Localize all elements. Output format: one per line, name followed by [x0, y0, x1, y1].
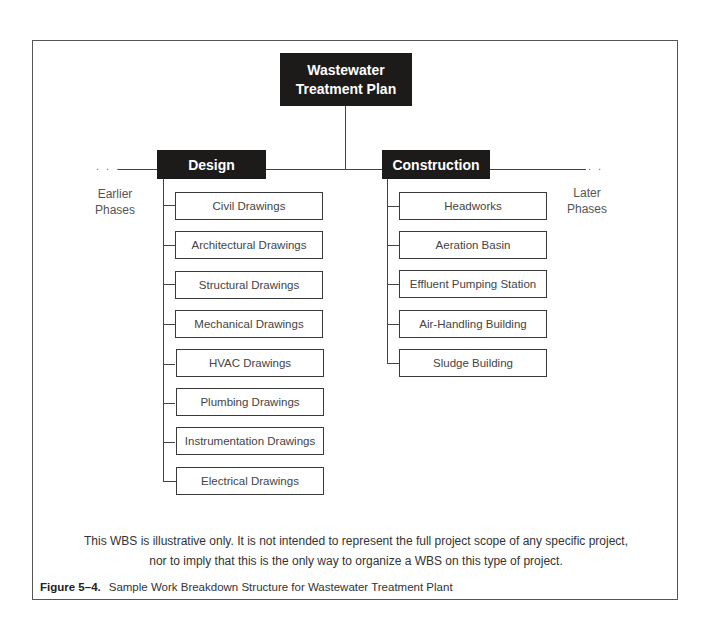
figure-frame [32, 40, 678, 600]
design-tick [163, 364, 175, 365]
leaf-label: Effluent Pumping Station [410, 278, 536, 290]
design-tick [163, 442, 175, 443]
note-line1: This WBS is illustrative only. It is not… [40, 531, 672, 551]
earlier-line2: Phases [92, 202, 138, 218]
leaf-label: Sludge Building [433, 357, 513, 369]
design-child-electrical: Electrical Drawings [176, 467, 324, 495]
later-line2: Phases [564, 201, 610, 217]
design-tick [163, 324, 175, 325]
construction-node: Construction [382, 150, 490, 179]
earlier-phases-label: Earlier Phases [92, 186, 138, 218]
leaf-label: Instrumentation Drawings [185, 435, 315, 447]
construction-child-air-handling: Air-Handling Building [399, 310, 547, 338]
design-tick [163, 481, 176, 482]
design-tick [163, 403, 175, 404]
construction-tick [387, 284, 399, 285]
leaf-label: Plumbing Drawings [200, 396, 299, 408]
construction-tick [387, 245, 399, 246]
earlier-line1: Earlier [92, 186, 138, 202]
leaf-label: Mechanical Drawings [194, 318, 303, 330]
leaf-label: Civil Drawings [213, 200, 286, 212]
caption-text: Sample Work Breakdown Structure for Wast… [109, 581, 453, 593]
design-tick [163, 205, 175, 206]
later-phases-label: Later Phases [564, 185, 610, 217]
leaf-label: HVAC Drawings [209, 357, 291, 369]
design-child-architectural: Architectural Drawings [175, 231, 323, 259]
design-spine [163, 179, 164, 481]
caption-label: Figure 5–4. [40, 581, 101, 593]
construction-tick [387, 363, 399, 364]
construction-child-aeration: Aeration Basin [399, 231, 547, 259]
design-child-plumbing: Plumbing Drawings [176, 388, 324, 416]
design-label: Design [188, 157, 235, 173]
design-tick [163, 245, 175, 246]
leaf-label: Headworks [444, 200, 502, 212]
design-child-mechanical: Mechanical Drawings [175, 310, 323, 338]
construction-child-effluent: Effluent Pumping Station [399, 270, 547, 298]
earlier-dots: . . . [96, 160, 121, 172]
root-label-line1: Wastewater [296, 61, 396, 80]
design-child-instrumentation: Instrumentation Drawings [176, 427, 324, 455]
construction-label: Construction [392, 157, 479, 173]
leaf-label: Electrical Drawings [201, 475, 299, 487]
figure-caption: Figure 5–4.Sample Work Breakdown Structu… [40, 581, 453, 593]
later-line1: Later [564, 185, 610, 201]
construction-child-sludge: Sludge Building [399, 349, 547, 377]
disclaimer-note: This WBS is illustrative only. It is not… [40, 531, 672, 571]
design-child-hvac: HVAC Drawings [176, 349, 324, 377]
construction-tick [387, 324, 399, 325]
leaf-label: Aeration Basin [436, 239, 511, 251]
leaf-label: Air-Handling Building [419, 318, 526, 330]
design-tick [163, 284, 175, 285]
leaf-label: Architectural Drawings [191, 239, 306, 251]
design-node: Design [157, 150, 266, 179]
root-label-line2: Treatment Plan [296, 80, 396, 99]
design-child-structural: Structural Drawings [175, 271, 323, 299]
root-node: Wastewater Treatment Plan [280, 53, 412, 106]
construction-child-headworks: Headworks [399, 192, 547, 220]
leaf-label: Structural Drawings [199, 279, 299, 291]
root-connector [345, 106, 346, 169]
later-dots: . . [588, 160, 603, 172]
design-child-civil: Civil Drawings [175, 192, 323, 220]
construction-tick [387, 206, 399, 207]
note-line2: nor to imply that this is the only way t… [40, 551, 672, 571]
